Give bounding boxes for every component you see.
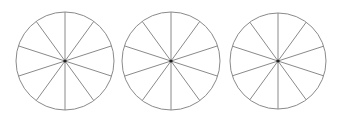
sector-divider xyxy=(18,61,65,76)
center-point xyxy=(169,59,172,62)
circle-2-divided-circle xyxy=(122,12,220,110)
circles-diagram xyxy=(0,0,338,128)
sector-divider xyxy=(278,61,324,76)
circle-3-divided-circle xyxy=(230,13,326,109)
sector-divider xyxy=(65,46,112,61)
sector-divider xyxy=(250,22,278,61)
sector-divider xyxy=(124,46,171,61)
sector-divider xyxy=(36,61,65,101)
center-point xyxy=(276,59,279,62)
sector-divider xyxy=(278,46,324,61)
sector-divider xyxy=(36,21,65,61)
sector-divider xyxy=(171,46,218,61)
sector-divider xyxy=(171,21,200,61)
sector-divider xyxy=(65,61,94,101)
sector-divider xyxy=(171,61,218,76)
sector-divider xyxy=(232,46,278,61)
sector-divider xyxy=(142,21,171,61)
sector-divider xyxy=(142,61,171,101)
sector-divider xyxy=(124,61,171,76)
sector-divider xyxy=(278,22,306,61)
center-point xyxy=(63,59,66,62)
sector-divider xyxy=(232,61,278,76)
diagram-canvas xyxy=(0,0,338,128)
circle-1-divided-circle xyxy=(16,12,114,110)
sector-divider xyxy=(171,61,200,101)
sector-divider xyxy=(65,61,112,76)
sector-divider xyxy=(278,61,306,100)
sector-divider xyxy=(65,21,94,61)
sector-divider xyxy=(250,61,278,100)
sector-divider xyxy=(18,46,65,61)
